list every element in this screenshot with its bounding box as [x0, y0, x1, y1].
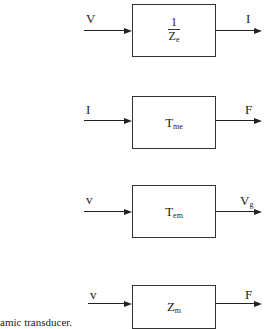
denominator-sub: e	[176, 35, 180, 44]
input-arrow-line	[84, 211, 126, 212]
output-label: Vg	[240, 193, 253, 209]
transfer-label: Tme	[165, 115, 183, 131]
numerator: 1	[168, 16, 180, 30]
output-label: F	[245, 102, 252, 118]
output-arrow-line	[216, 303, 256, 304]
denominator: Ze	[169, 30, 180, 46]
arrow-head-icon	[124, 209, 132, 215]
arrow-head-icon	[254, 301, 262, 307]
transfer-box: Tme	[132, 96, 216, 149]
arrow-head-icon	[124, 301, 132, 307]
output-arrow-line	[216, 30, 256, 31]
input-arrow-line	[84, 120, 126, 121]
output-label: F	[245, 287, 252, 303]
input-label: I	[86, 102, 90, 118]
input-label: v	[90, 287, 97, 303]
output-arrow-line	[216, 120, 256, 121]
transfer-box: Zm	[132, 285, 216, 329]
transfer-label: Zm	[167, 299, 181, 315]
arrow-head-icon	[254, 28, 262, 34]
transfer-box: Tem	[132, 185, 216, 238]
transfer-sub: em	[173, 211, 183, 220]
output-label: I	[246, 11, 250, 27]
input-label: V	[86, 11, 95, 27]
arrow-head-icon	[254, 209, 262, 215]
input-label: v	[86, 192, 93, 208]
input-arrow-line	[84, 30, 126, 31]
transfer-main: T	[165, 204, 173, 219]
fraction: 1 Ze	[168, 16, 180, 46]
transfer-main: T	[165, 115, 173, 130]
arrow-head-icon	[124, 118, 132, 124]
arrow-head-icon	[254, 118, 262, 124]
transfer-sub: me	[173, 122, 183, 131]
output-main: V	[240, 193, 249, 208]
transfer-box: 1 Ze	[132, 4, 216, 57]
input-arrow-line	[88, 303, 126, 304]
denominator-main: Z	[169, 29, 176, 43]
transfer-label: Tem	[165, 204, 183, 220]
transfer-sub: m	[175, 306, 181, 315]
transfer-main: Z	[167, 299, 175, 314]
arrow-head-icon	[124, 28, 132, 34]
output-sub: g	[249, 200, 253, 209]
figure-caption: amic transducer.	[0, 316, 72, 328]
output-arrow-line	[216, 211, 256, 212]
